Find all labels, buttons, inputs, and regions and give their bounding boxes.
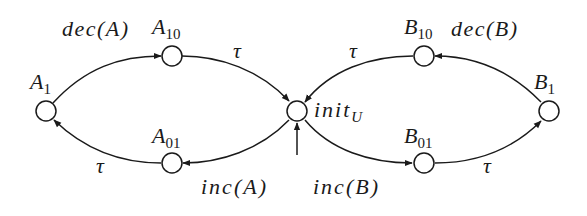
label-B1: B1 bbox=[534, 69, 555, 97]
label-A01: A01 bbox=[150, 123, 180, 151]
edge-initU-to-B01 bbox=[305, 120, 412, 163]
edge-initU-to-A01 bbox=[183, 120, 289, 163]
state-A1 bbox=[36, 101, 56, 121]
state-initU bbox=[287, 101, 307, 121]
edge-A1-to-A10 bbox=[53, 56, 161, 103]
edge-label-decA: dec(A) bbox=[62, 16, 130, 41]
edge-B10-to-initU bbox=[305, 56, 413, 102]
edge-label-decB: dec(B) bbox=[451, 16, 519, 41]
state-A10 bbox=[162, 46, 182, 66]
edge-label-tau-B10: τ bbox=[349, 38, 358, 63]
edge-A01-to-A1 bbox=[54, 120, 161, 163]
edge-B1-to-B10 bbox=[435, 56, 541, 102]
edge-label-incB: inc(B) bbox=[313, 174, 380, 199]
label-A10: A10 bbox=[150, 14, 180, 42]
label-B10: B10 bbox=[404, 14, 432, 42]
edge-label-tau-A01: τ bbox=[96, 153, 105, 178]
state-B1 bbox=[539, 101, 559, 121]
label-B01: B01 bbox=[404, 123, 432, 151]
edge-label-incA: inc(A) bbox=[201, 174, 268, 199]
edge-label-tau-B01: τ bbox=[483, 153, 492, 178]
label-A1: A1 bbox=[28, 69, 51, 97]
edge-label-tau-A10: τ bbox=[233, 38, 242, 63]
label-initU: initU bbox=[314, 97, 363, 125]
state-B10 bbox=[414, 46, 434, 66]
state-A01 bbox=[162, 153, 182, 173]
state-B01 bbox=[414, 153, 434, 173]
state-diagram: A1 A10 A01 initU B10 B01 B1 dec(A) τ inc… bbox=[0, 0, 587, 216]
